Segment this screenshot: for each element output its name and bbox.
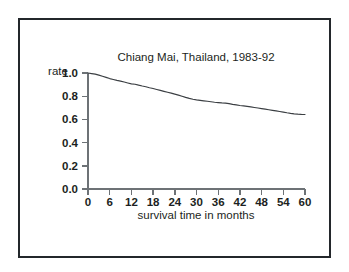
chart-title: Chiang Mai, Thailand, 1983-92: [117, 51, 274, 63]
x-tick-label: 42: [234, 196, 247, 208]
y-tick-label: 0.4: [62, 137, 79, 149]
survival-curve: [88, 73, 305, 115]
x-tick-label: 6: [106, 196, 112, 208]
x-tick-label: 12: [125, 196, 138, 208]
y-tick-label: 0.2: [62, 160, 78, 172]
x-tick-label: 60: [299, 196, 312, 208]
figure-root: Chiang Mai, Thailand, 1983-92 rate survi…: [0, 0, 349, 272]
y-tick-label: 0.8: [62, 90, 79, 102]
y-axis-tick-labels: 0.00.20.40.60.81.0: [62, 67, 79, 195]
y-axis-ticks: [82, 73, 88, 189]
x-axis-tick-labels: 06121824303642485460: [85, 196, 312, 208]
x-tick-label: 30: [190, 196, 203, 208]
x-tick-label: 24: [168, 196, 181, 208]
x-tick-label: 48: [255, 196, 268, 208]
x-tick-label: 18: [147, 196, 160, 208]
y-tick-label: 0.6: [62, 113, 78, 125]
x-tick-label: 36: [212, 196, 225, 208]
x-tick-label: 0: [85, 196, 91, 208]
y-tick-label: 0.0: [62, 183, 78, 195]
survival-rate-chart: Chiang Mai, Thailand, 1983-92 rate survi…: [0, 0, 349, 272]
x-tick-label: 54: [277, 196, 290, 208]
y-tick-label: 1.0: [62, 67, 78, 79]
x-axis-label: survival time in months: [138, 209, 255, 221]
x-axis-ticks: [88, 189, 305, 195]
